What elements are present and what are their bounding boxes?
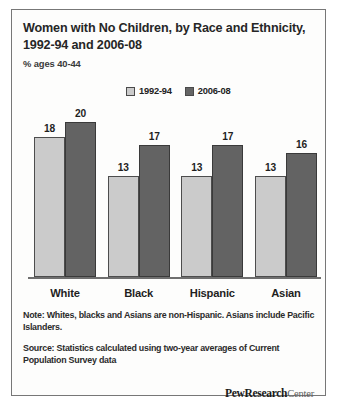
bar-value-label: 17 <box>139 131 170 142</box>
bar-group: 1317 <box>181 106 243 277</box>
bar-slot: 18 <box>34 106 65 277</box>
legend-swatch-icon <box>126 87 135 96</box>
bar-group: 1316 <box>255 106 317 277</box>
legend-label: 2006-08 <box>198 86 231 96</box>
bar-slot: 17 <box>139 106 170 277</box>
x-axis-label: Asian <box>255 287 317 299</box>
bar-value-label: 13 <box>181 162 212 173</box>
x-axis-label: Black <box>108 287 170 299</box>
bar-slot: 16 <box>286 106 317 277</box>
bar[interactable] <box>108 176 139 277</box>
brand-primary: PewResearch <box>225 387 287 399</box>
bar-slot: 13 <box>181 106 212 277</box>
bar-value-label: 20 <box>65 108 96 119</box>
bar[interactable] <box>139 145 170 277</box>
bar[interactable] <box>286 153 317 277</box>
bar[interactable] <box>181 176 212 277</box>
legend-item-1992-94: 1992-94 <box>126 86 172 96</box>
footnotes: Note: Whites, blacks and Asians are non-… <box>23 310 316 366</box>
bar-value-label: 17 <box>212 131 243 142</box>
bar[interactable] <box>34 137 65 277</box>
x-axis-label: Hispanic <box>181 287 243 299</box>
x-axis-label: White <box>34 287 96 299</box>
legend-label: 1992-94 <box>139 86 172 96</box>
note-text: Note: Whites, blacks and Asians are non-… <box>23 310 316 334</box>
chart-legend: 1992-94 2006-08 <box>126 86 230 96</box>
x-axis-line <box>28 277 321 279</box>
bar-value-label: 13 <box>255 162 286 173</box>
bar-slot: 17 <box>212 106 243 277</box>
plot-area: 1820131713171316 <box>34 106 317 277</box>
bar[interactable] <box>212 145 243 277</box>
legend-swatch-icon <box>185 87 194 96</box>
source-text: Source: Statistics calculated using two-… <box>23 343 316 367</box>
bar-group: 1820 <box>34 106 96 277</box>
bar[interactable] <box>255 176 286 277</box>
bar-groups: 1820131713171316 <box>34 106 317 277</box>
legend-item-2006-08: 2006-08 <box>185 86 231 96</box>
x-axis-labels: WhiteBlackHispanicAsian <box>34 287 317 299</box>
bar-value-label: 18 <box>34 123 65 134</box>
brand-secondary: Center <box>287 388 314 399</box>
bar-slot: 13 <box>108 106 139 277</box>
chart-figure: Women with No Children, by Race and Ethn… <box>11 9 326 396</box>
bar-value-label: 16 <box>286 139 317 150</box>
chart-title: Women with No Children, by Race and Ethn… <box>23 20 314 53</box>
bar-group: 1317 <box>108 106 170 277</box>
bar[interactable] <box>65 122 96 277</box>
pew-research-center-logo: PewResearchCenter <box>225 383 314 401</box>
bar-slot: 20 <box>65 106 96 277</box>
bar-value-label: 13 <box>108 162 139 173</box>
bar-slot: 13 <box>255 106 286 277</box>
chart-subtitle: % ages 40-44 <box>23 58 314 69</box>
